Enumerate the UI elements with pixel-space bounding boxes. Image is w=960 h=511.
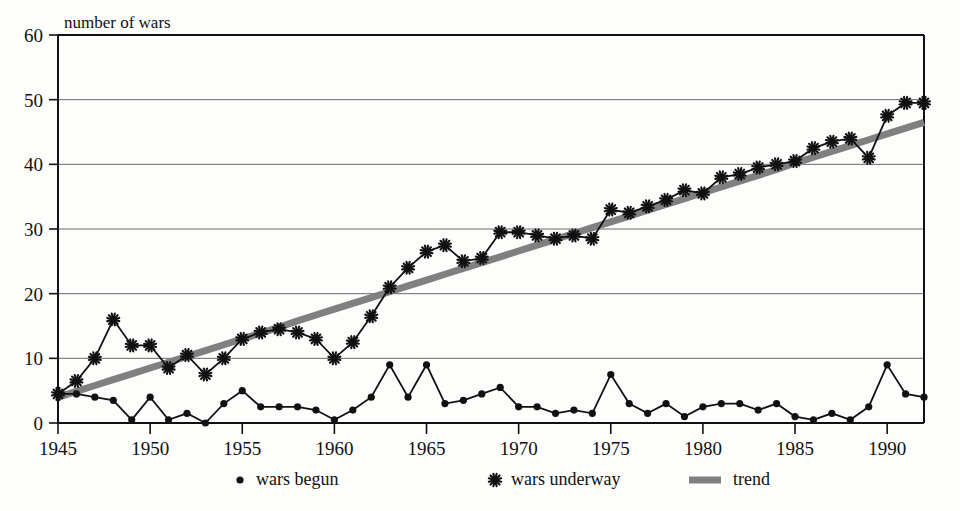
asterisk-marker [70,375,82,387]
dot-marker [589,410,596,417]
asterisk-marker [365,310,377,322]
dot-marker [331,416,338,423]
dot-marker [865,403,872,410]
asterisk-marker [439,239,451,251]
dot-marker [54,390,61,397]
x-tick-label: 1965 [408,438,446,459]
dot-marker [368,394,375,401]
dot-marker [570,406,577,413]
dot-marker [662,400,669,407]
series-wars-underway [52,97,930,400]
chart-legend: wars begunwars underwaytrend [236,469,770,489]
x-axis-tick-labels: 1945195019551960196519701975198019851990 [39,438,906,459]
asterisk-icon [489,474,501,486]
dot-marker [276,403,283,410]
x-tick-label: 1960 [315,438,353,459]
dot-marker [773,400,780,407]
dot-marker [91,394,98,401]
dot-marker [644,410,651,417]
dot-marker [257,403,264,410]
legend-item-trend[interactable]: trend [689,469,770,489]
y-tick-label: 10 [24,348,43,369]
dot-marker [920,394,927,401]
y-axis-title: number of wars [64,13,171,32]
asterisk-marker [310,333,322,345]
dot-marker [497,384,504,391]
legend-label: trend [733,469,770,489]
dot-marker [239,387,246,394]
legend-label: wars begun [256,469,338,489]
gridlines [58,35,924,423]
dot-marker [718,400,725,407]
x-tick-label: 1945 [39,438,77,459]
dot-marker [183,410,190,417]
dot-marker [441,400,448,407]
x-tick-label: 1990 [868,438,906,459]
x-tick-label: 1955 [223,438,261,459]
dot-marker [902,390,909,397]
legend-item-wars-begun[interactable]: wars begun [236,469,338,489]
y-tick-label: 0 [34,413,44,434]
asterisk-marker [199,369,211,381]
dot-marker [349,406,356,413]
wars-chart: 0102030405060 19451950195519601965197019… [0,0,960,511]
dot-marker [478,390,485,397]
y-tick-label: 60 [24,25,43,46]
dot-marker [884,361,891,368]
dot-marker [202,419,209,426]
dot-marker [847,416,854,423]
x-tick-label: 1985 [776,438,814,459]
x-tick-label: 1975 [592,438,630,459]
asterisk-marker [402,262,414,274]
asterisk-marker [421,246,433,258]
dot-marker [828,410,835,417]
series-wars-begun [54,361,927,426]
y-axis-tick-labels: 0102030405060 [24,25,43,434]
dot-marker [699,403,706,410]
legend-label: wars underway [511,469,620,489]
dot-marker [73,390,80,397]
y-tick-label: 20 [24,284,43,305]
dot-marker [220,400,227,407]
dot-marker [460,397,467,404]
axis-ticks [49,35,887,434]
x-tick-label: 1980 [684,438,722,459]
y-tick-label: 40 [24,154,43,175]
dot-marker [404,394,411,401]
asterisk-marker [807,142,819,154]
dot-marker [810,416,817,423]
dot-marker [552,410,559,417]
dot-marker [128,416,135,423]
dot-marker [147,394,154,401]
dot-marker [110,397,117,404]
dot-marker [607,371,614,378]
dot-marker [755,406,762,413]
legend-item-wars-underway[interactable]: wars underway [489,469,621,489]
dot-icon [236,476,243,483]
asterisk-marker [107,314,119,326]
dot-marker [386,361,393,368]
asterisk-marker [863,152,875,164]
dot-marker [736,400,743,407]
y-tick-label: 30 [24,219,43,240]
asterisk-marker [881,110,893,122]
dot-marker [165,416,172,423]
asterisk-marker [347,336,359,348]
dot-marker [681,413,688,420]
dot-marker [515,403,522,410]
dot-marker [423,361,430,368]
y-tick-label: 50 [24,90,43,111]
x-tick-label: 1970 [500,438,538,459]
dot-marker [312,406,319,413]
dot-marker [626,400,633,407]
chart-canvas: 0102030405060 19451950195519601965197019… [0,0,960,511]
x-tick-label: 1950 [131,438,169,459]
dot-marker [791,413,798,420]
dot-marker [533,403,540,410]
dot-marker [294,403,301,410]
